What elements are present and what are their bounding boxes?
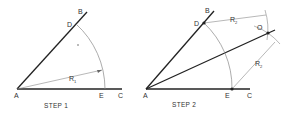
step2-label-r2-top: R2: [230, 16, 238, 25]
step1-dot: [77, 44, 78, 45]
step2-point-e: [230, 87, 233, 90]
step2-label-r2-right: R2: [255, 60, 263, 69]
step2-figure: A B D E C O R2 R2 STEP 2: [143, 7, 280, 108]
step2-caption: STEP 2: [172, 101, 196, 108]
step2-radius-r2-right: [232, 42, 275, 89]
step1-figure: A B D E C R1 STEP 1: [14, 8, 123, 109]
step2-label-b: B: [205, 7, 210, 14]
step1-arrowhead-icon: [97, 70, 102, 73]
step2-label-a: A: [143, 92, 148, 99]
step1-label-a: A: [14, 92, 19, 99]
step1-label-b: B: [78, 8, 83, 15]
step2-label-e: E: [225, 92, 230, 99]
step2-point-d: [202, 21, 205, 24]
step1-caption: STEP 1: [44, 102, 68, 109]
diagram-canvas: A B D E C R1 STEP 1 A B D E C O R2 R2 ST…: [0, 0, 292, 114]
step1-arc-de: [76, 24, 105, 89]
step2-label-d: D: [194, 20, 199, 27]
step1-radius-r1: [17, 70, 102, 89]
step1-label-e: E: [99, 92, 104, 99]
step2-point-o: [266, 31, 269, 34]
step1-label-d: D: [67, 21, 72, 28]
step1-label-r1: R1: [69, 75, 77, 84]
step1-label-c: C: [118, 92, 123, 99]
step1-ray-ab: [17, 12, 87, 89]
step2-label-o: O: [257, 24, 263, 31]
step2-arc-from-d: [265, 10, 268, 40]
step2-label-c: C: [247, 92, 252, 99]
